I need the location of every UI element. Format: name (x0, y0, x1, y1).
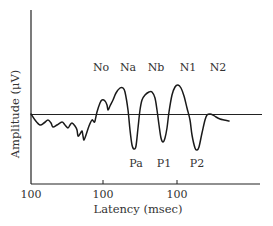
peak-label-pa: Pa (129, 157, 143, 170)
peak-label-p1: P1 (157, 157, 171, 170)
peak-label-n2: N2 (210, 61, 227, 74)
peak-label-na: Na (120, 61, 137, 74)
peak-label-n1: N1 (180, 61, 197, 74)
peak-label-nb: Nb (148, 61, 165, 74)
peak-label-no: No (93, 61, 110, 74)
y-axis-title: Amplitude (μV) (8, 70, 22, 160)
x-tick-label-3: 100 (167, 188, 188, 201)
x-axis-title: Latency (msec) (94, 202, 183, 216)
x-tick-label-2: 100 (93, 188, 114, 201)
x-tick-label-1: 100 (21, 188, 42, 201)
peak-label-p2: P2 (190, 157, 204, 170)
waveform-line (31, 85, 229, 150)
evoked-potential-chart: 100 100 100 Latency (msec) Amplitude (μV… (0, 0, 273, 226)
